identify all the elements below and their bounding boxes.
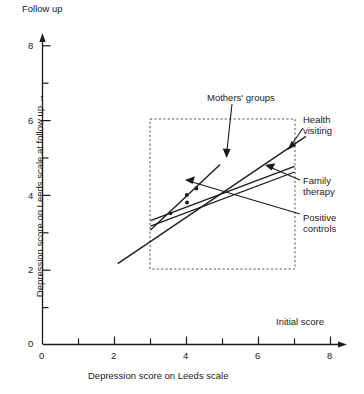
series-line-health-visiting	[118, 136, 306, 263]
annotation-positive-controls: Positive controls	[303, 212, 336, 234]
y-axis-title: Depression score on Leeds scale at follo…	[34, 71, 45, 321]
series-line-family-therapy	[151, 166, 295, 220]
chart-canvas	[0, 0, 364, 394]
x-axis-arrow	[338, 341, 347, 347]
annotation-family-therapy: Family therapy	[303, 175, 335, 197]
annotation-family-therapy-line1: Family	[303, 175, 335, 186]
series-line-positive-controls	[151, 172, 295, 226]
x-axis-ticks	[79, 337, 331, 345]
x-tick-label-0: 0	[39, 350, 44, 361]
x-axis-title: Depression score on Leeds scale	[88, 370, 228, 381]
annotation-health-visiting-line2: visiting	[303, 125, 332, 136]
annotation-positive-controls-line2: controls	[303, 223, 336, 234]
leader-mothers-groups	[223, 104, 232, 158]
x-tick-label-8: 8	[327, 350, 332, 361]
figure-caption	[0, 388, 364, 394]
data-markers	[169, 187, 198, 216]
annotation-health-visiting-line1: Health	[303, 114, 332, 125]
y-axis-note: Follow up	[22, 3, 63, 14]
y-tick-label-6: 6	[28, 115, 33, 126]
x-axis-note: Initial score	[276, 316, 324, 327]
annotation-positive-controls-line1: Positive	[303, 212, 336, 223]
annotation-health-visiting: Health visiting	[303, 114, 332, 136]
y-tick-label-2: 2	[28, 264, 33, 275]
annotation-mothers-groups: Mothers' groups	[207, 92, 275, 103]
annotation-family-therapy-line2: therapy	[303, 186, 335, 197]
x-tick-label-4: 4	[183, 350, 188, 361]
y-tick-label-0: 0	[28, 338, 33, 349]
y-tick-label-4: 4	[28, 190, 33, 201]
y-axis-arrow	[39, 33, 45, 42]
x-tick-label-2: 2	[111, 350, 116, 361]
y-tick-label-8: 8	[28, 40, 33, 51]
x-tick-label-6: 6	[255, 350, 260, 361]
series-line-mothers-groups	[151, 165, 221, 231]
